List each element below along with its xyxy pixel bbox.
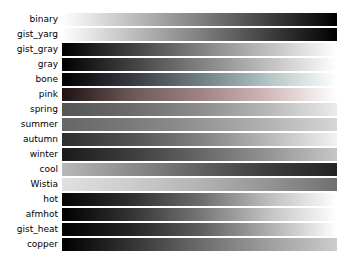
- colormap-row: gist_gray: [0, 43, 348, 56]
- colormap-bar-winter: [62, 148, 337, 161]
- colormap-label-hot: hot: [0, 193, 58, 206]
- colormap-bar-gist_heat: [62, 223, 337, 236]
- colormap-label-winter: winter: [0, 148, 58, 161]
- colormap-label-bone: bone: [0, 73, 58, 86]
- colormap-row: summer: [0, 118, 348, 131]
- colormap-label-cool: cool: [0, 163, 58, 176]
- colormap-label-afmhot: afmhot: [0, 208, 58, 221]
- colormap-label-binary: binary: [0, 13, 58, 26]
- colormap-row: afmhot: [0, 208, 348, 221]
- colormap-row: autumn: [0, 133, 348, 146]
- colormap-row: cool: [0, 163, 348, 176]
- colormap-row: gist_yarg: [0, 28, 348, 41]
- colormap-bar-gist_gray: [62, 43, 337, 56]
- colormap-row: Wistia: [0, 178, 348, 191]
- colormap-row: winter: [0, 148, 348, 161]
- colormap-bar-autumn: [62, 133, 337, 146]
- colormap-bar-spring: [62, 103, 337, 116]
- colormap-label-gist_gray: gist_gray: [0, 43, 58, 56]
- colormap-row: binary: [0, 13, 348, 26]
- colormap-label-autumn: autumn: [0, 133, 58, 146]
- colormap-label-copper: copper: [0, 238, 58, 251]
- colormap-bar-hot: [62, 193, 337, 206]
- colormap-bar-bone: [62, 73, 337, 86]
- colormap-bar-binary: [62, 13, 337, 26]
- colormap-label-spring: spring: [0, 103, 58, 116]
- colormap-label-Wistia: Wistia: [0, 178, 58, 191]
- colormap-label-pink: pink: [0, 88, 58, 101]
- colormap-row-list: binarygist_yarggist_graygraybonepinkspri…: [0, 13, 348, 253]
- colormap-row: spring: [0, 103, 348, 116]
- colormap-label-gist_heat: gist_heat: [0, 223, 58, 236]
- colormap-bar-summer: [62, 118, 337, 131]
- colormap-reference-figure: binarygist_yarggist_graygraybonepinkspri…: [0, 0, 348, 265]
- colormap-bar-pink: [62, 88, 337, 101]
- colormap-bar-afmhot: [62, 208, 337, 221]
- colormap-bar-copper: [62, 238, 337, 251]
- colormap-bar-Wistia: [62, 178, 337, 191]
- colormap-row: gray: [0, 58, 348, 71]
- colormap-bar-gist_yarg: [62, 28, 337, 41]
- colormap-row: bone: [0, 73, 348, 86]
- colormap-row: hot: [0, 193, 348, 206]
- colormap-row: gist_heat: [0, 223, 348, 236]
- colormap-row: pink: [0, 88, 348, 101]
- colormap-bar-gray: [62, 58, 337, 71]
- colormap-row: copper: [0, 238, 348, 251]
- colormap-label-summer: summer: [0, 118, 58, 131]
- colormap-label-gray: gray: [0, 58, 58, 71]
- colormap-bar-cool: [62, 163, 337, 176]
- colormap-label-gist_yarg: gist_yarg: [0, 28, 58, 41]
